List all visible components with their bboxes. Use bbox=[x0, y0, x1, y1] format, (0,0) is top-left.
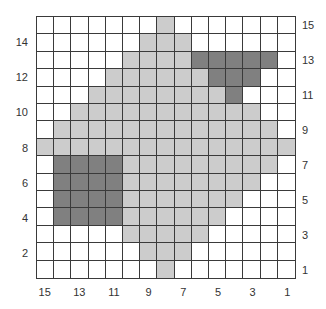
column-number-label: 7 bbox=[173, 286, 193, 298]
chart-cell bbox=[243, 139, 260, 156]
chart-cell bbox=[71, 52, 88, 69]
chart-cell bbox=[54, 208, 71, 225]
chart-cell bbox=[226, 17, 243, 34]
chart-cell bbox=[157, 139, 174, 156]
chart-cell bbox=[157, 156, 174, 173]
chart-cell bbox=[209, 226, 226, 243]
chart-cell bbox=[89, 17, 106, 34]
chart-cell bbox=[54, 104, 71, 121]
chart-cell bbox=[243, 261, 260, 278]
chart-cell bbox=[106, 69, 123, 86]
chart-cell bbox=[243, 208, 260, 225]
chart-cell bbox=[71, 156, 88, 173]
row-number-label: 13 bbox=[302, 54, 314, 66]
chart-cell bbox=[209, 121, 226, 138]
chart-cell bbox=[278, 52, 295, 69]
chart-cell bbox=[37, 226, 54, 243]
chart-cell bbox=[278, 17, 295, 34]
chart-cell bbox=[261, 174, 278, 191]
chart-cell bbox=[106, 261, 123, 278]
chart-cell bbox=[261, 139, 278, 156]
column-number-label: 3 bbox=[243, 286, 263, 298]
chart-cell bbox=[106, 87, 123, 104]
chart-cell bbox=[261, 52, 278, 69]
chart-cell bbox=[106, 139, 123, 156]
chart-cell bbox=[140, 52, 157, 69]
chart-cell bbox=[209, 87, 226, 104]
chart-cell bbox=[243, 87, 260, 104]
chart-cell bbox=[140, 121, 157, 138]
chart-cell bbox=[106, 226, 123, 243]
chart-cell bbox=[157, 69, 174, 86]
chart-cell bbox=[261, 226, 278, 243]
chart-cell bbox=[140, 104, 157, 121]
chart-cell bbox=[175, 156, 192, 173]
chart-cell bbox=[140, 191, 157, 208]
column-number-label: 1 bbox=[277, 286, 297, 298]
chart-cell bbox=[71, 139, 88, 156]
chart-cell bbox=[37, 261, 54, 278]
chart-cell bbox=[71, 191, 88, 208]
chart-cell bbox=[37, 69, 54, 86]
chart-cell bbox=[261, 121, 278, 138]
chart-cell bbox=[209, 191, 226, 208]
chart-cell bbox=[140, 87, 157, 104]
chart-cell bbox=[278, 191, 295, 208]
chart-cell bbox=[278, 261, 295, 278]
chart-cell bbox=[226, 34, 243, 51]
chart-cell bbox=[261, 243, 278, 260]
row-number-label: 4 bbox=[4, 212, 28, 224]
chart-cell bbox=[243, 174, 260, 191]
chart-cell bbox=[89, 174, 106, 191]
chart-cell bbox=[106, 191, 123, 208]
chart-cell bbox=[192, 261, 209, 278]
chart-cell bbox=[123, 87, 140, 104]
chart-cell bbox=[71, 69, 88, 86]
chart-cell bbox=[278, 139, 295, 156]
chart-cell bbox=[140, 139, 157, 156]
chart-cell bbox=[192, 87, 209, 104]
chart-cell bbox=[37, 243, 54, 260]
chart-cell bbox=[192, 191, 209, 208]
chart-cell bbox=[106, 17, 123, 34]
chart-cell bbox=[140, 69, 157, 86]
chart-cell bbox=[192, 226, 209, 243]
chart-cell bbox=[226, 52, 243, 69]
chart-cell bbox=[37, 52, 54, 69]
column-number-label: 5 bbox=[208, 286, 228, 298]
row-number-label: 15 bbox=[302, 19, 314, 31]
chart-cell bbox=[243, 52, 260, 69]
chart-cell bbox=[89, 226, 106, 243]
chart-cell bbox=[106, 121, 123, 138]
chart-cell bbox=[278, 104, 295, 121]
chart-cell bbox=[37, 104, 54, 121]
chart-cell bbox=[89, 121, 106, 138]
chart-cell bbox=[123, 69, 140, 86]
chart-cell bbox=[123, 261, 140, 278]
chart-cell bbox=[226, 139, 243, 156]
knitting-chart-grid bbox=[36, 16, 296, 279]
chart-cell bbox=[209, 174, 226, 191]
column-number-label: 15 bbox=[35, 286, 55, 298]
chart-cell bbox=[243, 34, 260, 51]
chart-cell bbox=[54, 191, 71, 208]
chart-cell bbox=[278, 226, 295, 243]
chart-cell bbox=[278, 174, 295, 191]
chart-cell bbox=[157, 87, 174, 104]
chart-cell bbox=[157, 226, 174, 243]
chart-cell bbox=[226, 208, 243, 225]
chart-cell bbox=[89, 34, 106, 51]
chart-cell bbox=[106, 174, 123, 191]
chart-cell bbox=[157, 208, 174, 225]
row-number-label: 1 bbox=[302, 264, 308, 276]
chart-cell bbox=[140, 243, 157, 260]
chart-cell bbox=[140, 208, 157, 225]
chart-cell bbox=[89, 156, 106, 173]
chart-cell bbox=[71, 226, 88, 243]
chart-cell bbox=[123, 208, 140, 225]
chart-cell bbox=[261, 87, 278, 104]
row-number-label: 12 bbox=[4, 71, 28, 83]
chart-cell bbox=[54, 226, 71, 243]
chart-cell bbox=[175, 208, 192, 225]
chart-cell bbox=[226, 121, 243, 138]
